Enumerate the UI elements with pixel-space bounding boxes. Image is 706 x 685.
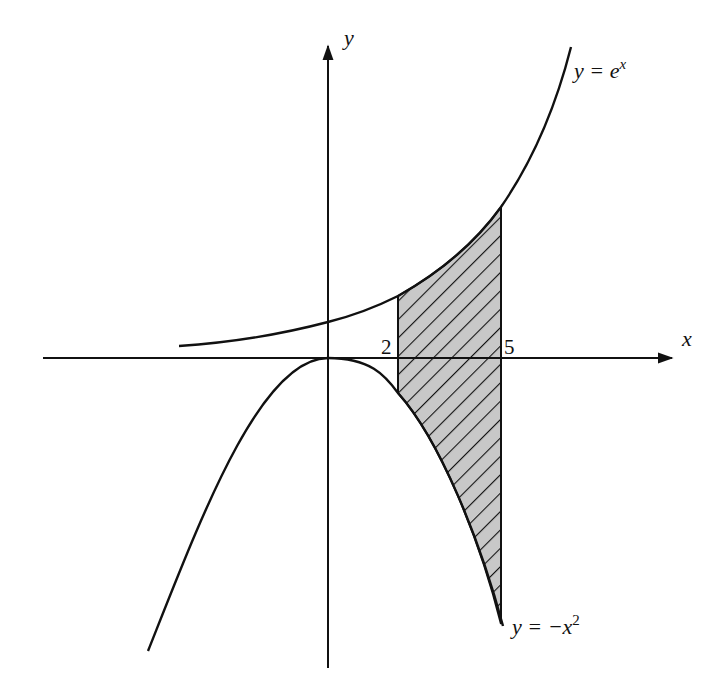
parabola-label-base: −x	[548, 614, 573, 639]
tick-label-5: 5	[504, 335, 515, 359]
exp-label-lhs: y =	[572, 58, 610, 83]
tick-label-2: 2	[381, 335, 392, 359]
parabola-label-exponent: 2	[572, 612, 580, 628]
parabola-curve-label: y = −x2	[510, 612, 580, 639]
y-axis-label: y	[342, 25, 354, 50]
parabola-label-lhs: y =	[510, 614, 548, 639]
x-axis-label: x	[681, 326, 692, 351]
shaded-region	[398, 207, 501, 624]
exp-curve	[179, 47, 571, 346]
exp-curve-label: y = ex	[572, 56, 626, 83]
exp-label-base: e	[610, 58, 620, 83]
exp-label-exponent: x	[618, 56, 626, 72]
graph-canvas: y x 2 5 y = ex y = −x2	[0, 0, 706, 685]
